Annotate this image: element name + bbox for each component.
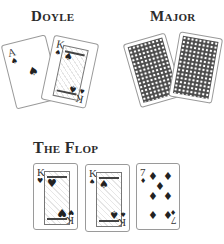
playing-card-seven-diamonds: 7 ♦ ♦ ♦ ♦ ♦ ♦ ♦ ♦ 7 ♦ (136, 163, 180, 230)
heart-icon: ♥ (37, 178, 43, 185)
playing-card-king-spades: K ♠ ♠ ♠ K ♠ (85, 164, 130, 232)
doyle-heading: Doyle (31, 8, 75, 25)
spade-icon: ♠ (27, 64, 40, 78)
diamond-icon: ♦ (148, 210, 158, 221)
spade-icon: ♠ (120, 210, 126, 217)
card-rank: K (118, 217, 126, 228)
diamond-icon: ♦ (170, 208, 176, 215)
card-rank: K (66, 215, 74, 226)
card-back-pattern (173, 36, 219, 99)
spade-icon: ♠ (89, 179, 95, 186)
face-down-card (168, 31, 223, 104)
playing-card-king-spades: K ♠ ♠ ♠ K ♠ (41, 35, 100, 109)
spade-icon: ♠ (63, 51, 74, 63)
card-rank: 7 (171, 215, 177, 226)
flop-heading: The Flop (33, 139, 98, 157)
spade-icon: ♠ (78, 86, 86, 94)
diamond-icon: ♦ (148, 191, 158, 202)
spade-icon: ♠ (99, 179, 109, 190)
diamond-icon: ♦ (140, 178, 146, 185)
spade-icon: ♠ (10, 57, 19, 66)
playing-card-king-hearts: K ♥ ♥ ♥ K ♥ (33, 163, 78, 230)
heart-icon: ♥ (47, 178, 57, 189)
heart-icon: ♥ (68, 208, 74, 215)
major-heading: Major (150, 8, 196, 25)
diamond-icon: ♦ (163, 191, 173, 202)
